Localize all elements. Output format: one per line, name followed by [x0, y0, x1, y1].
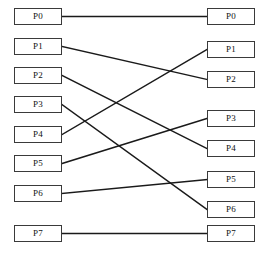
input-node-p3[interactable]: P3 — [14, 96, 62, 113]
output-node-p6[interactable]: P6 — [207, 201, 255, 218]
node-label: P4 — [33, 130, 43, 139]
node-label: P3 — [33, 100, 43, 109]
input-node-p4[interactable]: P4 — [14, 126, 62, 143]
input-node-p7[interactable]: P7 — [14, 225, 62, 242]
edge-p6-to-p5 — [62, 180, 207, 194]
input-node-p2[interactable]: P2 — [14, 67, 62, 84]
output-node-p3[interactable]: P3 — [207, 110, 255, 127]
node-label: P1 — [33, 42, 43, 51]
output-node-p4[interactable]: P4 — [207, 140, 255, 157]
output-node-p2[interactable]: P2 — [207, 71, 255, 88]
node-label: P7 — [33, 229, 43, 238]
edge-p4-to-p1 — [62, 50, 207, 135]
input-node-p6[interactable]: P6 — [14, 185, 62, 202]
edge-p2-to-p4 — [62, 76, 207, 149]
node-label: P0 — [33, 12, 43, 21]
node-label: P5 — [226, 175, 236, 184]
node-label: P3 — [226, 114, 236, 123]
input-node-p0[interactable]: P0 — [14, 8, 62, 25]
node-label: P6 — [33, 189, 43, 198]
output-node-p1[interactable]: P1 — [207, 41, 255, 58]
output-node-p0[interactable]: P0 — [207, 8, 255, 25]
node-label: P1 — [226, 45, 236, 54]
permutation-diagram: P0P1P2P3P4P5P6P7 P0P1P2P3P4P5P6P7 — [0, 0, 269, 259]
node-label: P2 — [33, 71, 43, 80]
output-node-p7[interactable]: P7 — [207, 225, 255, 242]
node-label: P5 — [33, 159, 43, 168]
node-label: P4 — [226, 144, 236, 153]
output-node-p5[interactable]: P5 — [207, 171, 255, 188]
input-node-p1[interactable]: P1 — [14, 38, 62, 55]
node-label: P6 — [226, 205, 236, 214]
node-label: P2 — [226, 75, 236, 84]
input-node-p5[interactable]: P5 — [14, 155, 62, 172]
node-label: P7 — [226, 229, 236, 238]
node-label: P0 — [226, 12, 236, 21]
